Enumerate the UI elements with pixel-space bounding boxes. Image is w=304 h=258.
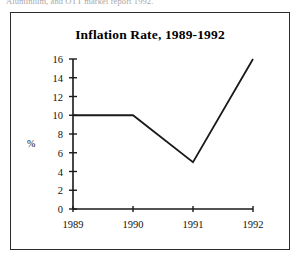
y-tick-label: 4 bbox=[41, 166, 63, 177]
x-tick-label: 1991 bbox=[170, 219, 216, 230]
figure-frame: Inflation Rate, 1989-1992 % 024681012141… bbox=[10, 12, 290, 250]
y-tick-label: 6 bbox=[41, 147, 63, 158]
y-tick-label: 12 bbox=[41, 91, 63, 102]
x-tick-label: 1989 bbox=[50, 219, 96, 230]
page-caption-fragment: Aluminium, and OTT market report 1992. bbox=[6, 0, 298, 7]
y-tick-label: 2 bbox=[41, 185, 63, 196]
y-tick-label: 16 bbox=[41, 54, 63, 65]
y-tick-label: 8 bbox=[41, 129, 63, 140]
y-tick-label: 10 bbox=[41, 110, 63, 121]
y-tick-label: 14 bbox=[41, 72, 63, 83]
x-tick-label: 1990 bbox=[110, 219, 156, 230]
data-series-line bbox=[73, 59, 253, 162]
x-tick-label: 1992 bbox=[230, 219, 276, 230]
y-tick-label: 0 bbox=[41, 204, 63, 215]
